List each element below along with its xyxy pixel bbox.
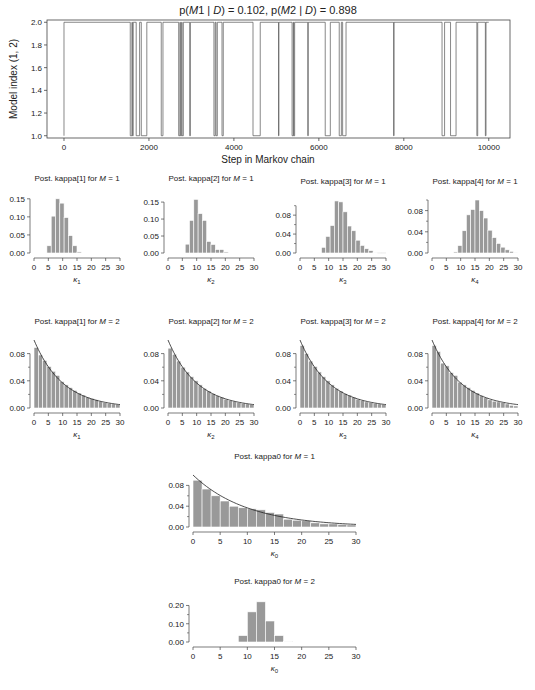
x-tick-label: 15: [339, 263, 348, 272]
x-tick-label: 5: [312, 418, 317, 427]
x-tick-label: 0: [166, 263, 171, 272]
histogram-bar: [43, 360, 47, 408]
x-tick-label: 25: [367, 418, 376, 427]
histogram-bar: [360, 245, 364, 253]
histogram-bar: [215, 250, 219, 253]
x-tick-label: 20: [485, 263, 494, 272]
histogram-bar: [215, 396, 219, 408]
y-tick-label: 0.20: [168, 601, 184, 610]
y-tick-label: 0.00: [275, 249, 291, 258]
histogram-bar: [432, 345, 436, 408]
x-tick-label: 0: [32, 263, 37, 272]
x-tick-label: 0: [430, 263, 435, 272]
histogram-bar: [479, 396, 483, 408]
y-tick-label: 0.08: [143, 350, 159, 359]
y-tick-label: 0.10: [168, 620, 184, 629]
histogram-bar: [229, 506, 238, 527]
x-axis-label: κ0: [271, 664, 279, 674]
histogram-bar: [185, 244, 189, 253]
histogram-bar: [275, 636, 284, 642]
panel-title: Post. kappa[3] for M = 2: [300, 317, 386, 326]
histogram-bar: [458, 382, 462, 408]
x-axis-label: κ4: [471, 430, 479, 440]
histogram-k2m1: Post. kappa[2] for M = 10.000.050.100.15…: [143, 174, 259, 285]
x-tick-label: 10: [324, 418, 333, 427]
histogram-bar: [81, 395, 85, 408]
y-axis-label: Model index (1, 2): [8, 39, 19, 119]
histogram-bar: [377, 404, 381, 408]
histogram-bar: [293, 520, 302, 527]
histogram-bar: [352, 397, 356, 408]
histogram-k3m1: Post. kappa[3] for M = 10.000.040.080510…: [275, 177, 391, 285]
x-tick-label: 0: [32, 418, 37, 427]
histogram-bar: [309, 361, 313, 408]
panel-title: Post. kappa[4] for M = 1: [432, 177, 518, 186]
x-tick-label: 20: [353, 418, 362, 427]
histogram-bar: [454, 252, 458, 253]
x-tick-label: 20: [221, 418, 230, 427]
x-axis-label: κ2: [207, 430, 215, 440]
histogram-bar: [365, 249, 369, 253]
histogram-bar: [505, 404, 509, 408]
histogram-bar: [505, 250, 509, 253]
histogram-bar: [207, 391, 211, 408]
x-axis-label: κ3: [339, 275, 347, 285]
y-tick-label: 0.04: [168, 502, 184, 511]
histogram-bar: [198, 385, 202, 408]
histogram-bar: [492, 238, 496, 253]
histogram-bar: [501, 247, 505, 253]
histogram-bar: [220, 250, 224, 253]
x-axis-label: κ4: [471, 275, 479, 285]
y-tick-label: 1.0: [31, 132, 43, 141]
histogram-bar: [317, 372, 321, 408]
histogram-bar: [238, 636, 247, 642]
x-tick-label: 4000: [225, 143, 243, 152]
histogram-bar: [334, 388, 338, 408]
x-tick-label: 10: [324, 263, 333, 272]
histogram-k0m2: Post. kappa0 for M = 20.000.100.20051015…: [168, 577, 361, 674]
x-tick-label: 0: [191, 537, 196, 546]
histogram-k1m2: Post. kappa[1] for M = 20.000.040.080510…: [9, 317, 125, 440]
histogram-bar: [238, 508, 247, 527]
histogram-bar: [514, 252, 518, 253]
x-tick-label: 6000: [310, 143, 328, 152]
histogram-bar: [256, 602, 265, 642]
histogram-bar: [211, 496, 220, 527]
histogram-bar: [326, 236, 330, 253]
histogram-k2m2: Post. kappa[2] for M = 20.000.040.080510…: [143, 317, 259, 440]
histogram-bar: [224, 252, 228, 253]
histogram-bar: [211, 245, 215, 253]
x-tick-label: 15: [73, 263, 82, 272]
x-tick-label: 10: [58, 418, 67, 427]
histogram-bar: [103, 403, 107, 408]
y-tick-label: 0.00: [9, 249, 25, 258]
x-tick-label: 5: [218, 537, 223, 546]
histogram-bar: [449, 373, 453, 408]
histogram-bar: [202, 489, 211, 527]
panel-title: Post. kappa[4] for M = 2: [432, 317, 518, 326]
histogram-bar: [60, 381, 64, 408]
histogram-bar: [304, 354, 308, 408]
y-tick-label: 1.6: [31, 64, 43, 73]
histogram-bar: [220, 397, 224, 408]
histogram-k1m1: Post. kappa[1] for M = 10.000.050.100.15…: [9, 174, 125, 285]
y-tick-label: 0.00: [407, 249, 423, 258]
x-tick-label: 30: [352, 652, 361, 661]
x-tick-label: 5: [444, 263, 449, 272]
histogram-bar: [369, 403, 373, 408]
histogram-bar: [250, 405, 254, 408]
y-tick-label: 2.0: [31, 18, 43, 27]
histogram-bar: [284, 519, 293, 527]
histogram-bar: [116, 405, 120, 408]
histogram-bar: [339, 202, 343, 253]
histogram-bar: [365, 402, 369, 408]
histogram-bar: [509, 405, 513, 408]
histogram-bar: [86, 397, 90, 408]
histogram-bar: [462, 385, 466, 408]
y-tick-label: 0.15: [143, 198, 159, 207]
x-tick-label: 25: [101, 418, 110, 427]
histogram-bar: [369, 251, 373, 253]
histogram-bar: [462, 231, 466, 253]
histogram-bar: [458, 246, 462, 253]
x-tick-label: 20: [353, 263, 362, 272]
